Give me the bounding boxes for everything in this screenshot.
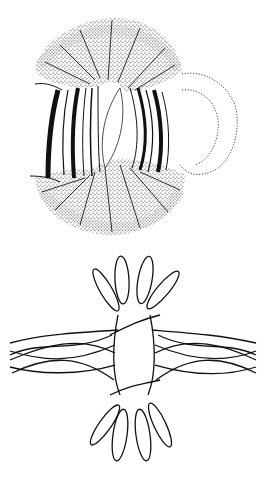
stippled-structure-figure xyxy=(0,0,271,235)
interwoven-loops-figure xyxy=(0,235,271,477)
